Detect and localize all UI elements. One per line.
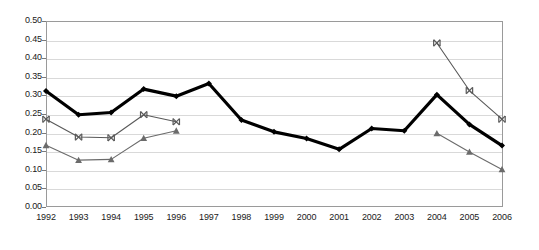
- y-axis-tickmarks: [0, 21, 46, 207]
- x-axis-tick-label: 1998: [232, 212, 252, 222]
- line-chart: 0.500.450.400.350.300.250.200.150.100.05…: [0, 0, 539, 250]
- x-axis-tick-label: 1992: [36, 212, 56, 222]
- x-axis-tick-label: 2000: [297, 212, 317, 222]
- data-point-triangle-marker: [499, 166, 506, 172]
- x-axis-tick-label: 1996: [166, 212, 186, 222]
- data-point-cross-marker: [499, 116, 505, 122]
- x-axis-tick-label: 2005: [460, 212, 480, 222]
- series-line: [437, 43, 502, 119]
- x-axis-tick-label: 1995: [134, 212, 154, 222]
- series-line: [46, 115, 176, 138]
- x-axis-tick-label: 1997: [199, 212, 219, 222]
- data-point-triangle-marker: [466, 149, 473, 155]
- x-axis-labels: 1992199319941995199619971998199920002001…: [46, 212, 503, 232]
- x-axis-tick-label: 2001: [329, 212, 349, 222]
- x-axis-tick-label: 2003: [394, 212, 414, 222]
- data-point-triangle-marker: [433, 130, 440, 136]
- series-series-2: [43, 40, 505, 141]
- data-point-cross-marker: [466, 87, 472, 93]
- x-axis-tick-label: 1994: [101, 212, 121, 222]
- series-line: [46, 131, 176, 160]
- data-point-cross-marker: [434, 40, 440, 46]
- x-axis-tick-label: 2004: [427, 212, 447, 222]
- y-axis-tickmark: [42, 207, 46, 208]
- x-axis-tick-label: 1999: [264, 212, 284, 222]
- x-axis-tick-label: 2002: [362, 212, 382, 222]
- data-point-triangle-marker: [173, 127, 180, 133]
- x-axis-tick-label: 1993: [69, 212, 89, 222]
- series-layer: [46, 21, 503, 207]
- x-axis-tick-label: 2006: [492, 212, 512, 222]
- series-series-1: [43, 80, 505, 152]
